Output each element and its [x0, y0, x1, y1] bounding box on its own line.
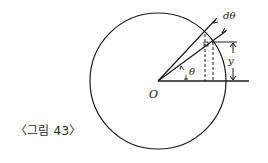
label-origin: O: [149, 88, 158, 101]
theta-arc-lower: [184, 75, 188, 80]
theta-arc-upper: [180, 66, 184, 70]
label-y: y: [227, 55, 234, 66]
label-theta: θ: [189, 66, 195, 77]
circle-diagram: O θ dθ y: [0, 0, 268, 163]
figure-caption: 〈그림 43〉: [15, 121, 81, 138]
label-dtheta: dθ: [223, 10, 235, 21]
ray-theta-plus-dtheta: [158, 19, 216, 81]
